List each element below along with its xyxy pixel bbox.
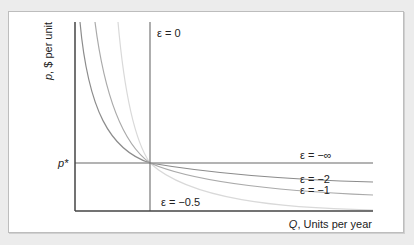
x-axis-label: Q, Units per year <box>289 218 372 230</box>
curve-e-minus-0.5 <box>118 22 373 210</box>
label-e-minus-infinity: ε = −∞ <box>300 149 332 161</box>
label-e-minus-1: ε = −1 <box>300 184 330 196</box>
label-e-minus-0.5: ε = −0.5 <box>161 196 200 208</box>
curve-e-minus-1 <box>95 22 373 195</box>
p-star-label: p* <box>57 157 69 169</box>
elasticity-chart: p, $ per unit Q, Units per year p* ε = 0… <box>0 0 414 245</box>
y-axis-label: p, $ per unit <box>42 22 54 81</box>
label-e-zero: ε = 0 <box>157 27 181 39</box>
